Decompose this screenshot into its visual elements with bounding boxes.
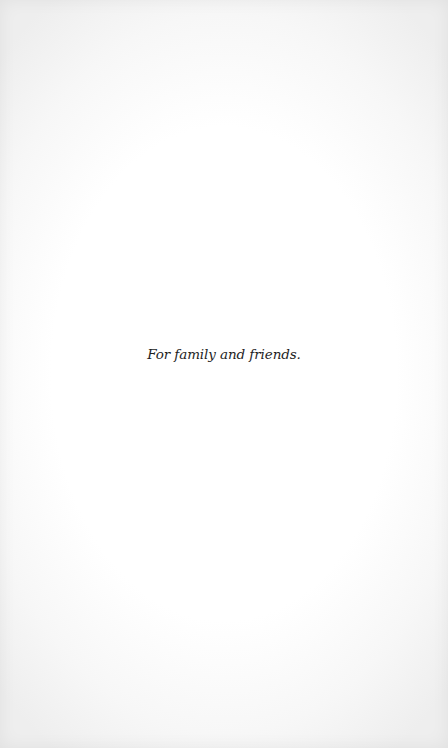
dedication-text: For family and friends. [0, 344, 448, 364]
book-page: For family and friends. [0, 0, 448, 748]
